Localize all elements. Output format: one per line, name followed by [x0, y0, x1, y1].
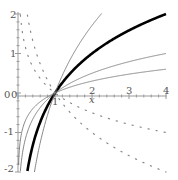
x-tick-label-3: 3 — [126, 86, 132, 96]
curve-log-1-2-x- — [27, 15, 166, 172]
x-tick-label-4: 4 — [163, 86, 169, 96]
y-tick-label-neg1: -1 — [4, 127, 14, 137]
origin-x-label: 0 — [11, 90, 17, 100]
curve-log-2-x- — [27, 14, 166, 171]
curve-log-4-x- — [20, 54, 166, 171]
y-tick-label-1: 1 — [10, 49, 16, 59]
x-tick-label-1: 1 — [52, 97, 58, 107]
y-tick-label-2: 2 — [10, 10, 16, 20]
y-tick-label-neg2: -2 — [4, 164, 14, 174]
x-axis-label: x — [89, 95, 95, 105]
curve-log-10-x- — [19, 69, 166, 165]
origin-y-label: 0 — [4, 90, 10, 100]
